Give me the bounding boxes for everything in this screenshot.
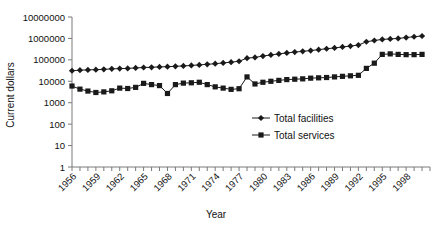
data-point-diamond: [236, 58, 242, 64]
data-point-diamond: [323, 46, 329, 52]
data-point-diamond: [411, 34, 417, 40]
y-axis-title: Current dollars: [5, 62, 16, 128]
data-point-diamond: [244, 55, 250, 61]
data-point-square: [165, 91, 170, 96]
data-point-square: [340, 74, 345, 79]
data-point-square: [300, 76, 305, 81]
data-point-square: [125, 86, 130, 91]
x-tick-label: 1998: [390, 171, 413, 194]
data-point-square: [276, 78, 281, 83]
x-tick-label: 1983: [270, 171, 293, 194]
data-series-group: [69, 33, 425, 96]
data-point-diamond: [93, 67, 99, 73]
data-point-square: [149, 82, 154, 87]
x-tick-label: 1986: [294, 171, 317, 194]
x-tick-label: 1962: [103, 171, 126, 194]
data-point-square: [411, 52, 416, 57]
x-tick-label: 1956: [56, 171, 79, 194]
data-point-square: [141, 81, 146, 86]
data-point-diamond: [133, 65, 139, 71]
x-axis-ticks: [72, 167, 430, 171]
data-point-square: [244, 74, 249, 79]
data-point-square: [213, 84, 218, 89]
data-point-diamond: [387, 36, 393, 42]
data-point-diamond: [101, 66, 107, 72]
data-point-diamond: [308, 48, 314, 54]
y-tick-label: 1000000: [28, 33, 65, 44]
data-point-square: [173, 82, 178, 87]
data-point-diamond: [268, 52, 274, 58]
data-point-diamond: [284, 50, 290, 56]
data-point-diamond: [395, 35, 401, 41]
data-point-diamond: [212, 61, 218, 67]
data-point-diamond: [292, 49, 298, 55]
data-point-diamond: [125, 65, 131, 71]
data-point-square: [181, 81, 186, 86]
data-point-diamond: [260, 53, 266, 59]
data-point-diamond: [419, 33, 425, 39]
data-point-square: [332, 74, 337, 79]
data-point-square: [117, 86, 122, 91]
data-point-diamond: [331, 45, 337, 51]
y-axis-title-text: Current dollars: [5, 62, 16, 128]
chart-legend: Total facilitiesTotal services: [252, 113, 335, 141]
y-tick-label: 100: [49, 119, 65, 130]
data-point-diamond: [204, 61, 210, 67]
y-tick-label: 10000: [39, 76, 65, 87]
legend-label: Total facilities: [274, 113, 333, 124]
data-point-square: [69, 83, 74, 88]
x-tick-label: 1977: [223, 171, 246, 194]
data-point-square: [260, 80, 265, 85]
data-point-square: [85, 88, 90, 93]
x-tick-label: 1965: [127, 171, 150, 194]
data-point-diamond: [196, 62, 202, 68]
data-point-diamond: [228, 59, 234, 65]
chart-container: Current dollars 100000001000000100000100…: [0, 0, 435, 231]
data-point-square: [236, 86, 241, 91]
data-point-diamond: [258, 115, 264, 121]
data-point-square: [229, 87, 234, 92]
data-point-diamond: [371, 37, 377, 43]
data-point-square: [372, 61, 377, 66]
x-tick-label: 1968: [151, 171, 174, 194]
data-point-diamond: [85, 67, 91, 73]
data-point-square: [101, 89, 106, 94]
data-point-diamond: [379, 36, 385, 42]
y-tick-label: 100000: [33, 54, 65, 65]
data-point-square: [348, 73, 353, 78]
y-tick-label: 1000: [44, 97, 65, 108]
data-point-diamond: [180, 63, 186, 69]
data-point-square: [197, 80, 202, 85]
data-point-square: [133, 85, 138, 90]
data-point-square: [419, 52, 424, 57]
x-tick-label: 1992: [342, 171, 365, 194]
data-point-diamond: [172, 63, 178, 69]
data-point-diamond: [220, 60, 226, 66]
data-point-diamond: [252, 54, 258, 60]
x-tick-label: 1974: [199, 171, 222, 194]
data-point-diamond: [164, 64, 170, 70]
data-point-square: [221, 86, 226, 91]
data-point-diamond: [347, 43, 353, 49]
x-tick-label: 1980: [247, 171, 270, 194]
data-point-diamond: [276, 51, 282, 57]
data-point-square: [252, 81, 257, 86]
x-tick-label: 1995: [366, 171, 389, 194]
data-point-square: [268, 79, 273, 84]
data-point-diamond: [339, 44, 345, 50]
data-point-square: [404, 52, 409, 57]
y-tick-label: 10000000: [23, 12, 65, 23]
data-point-square: [292, 77, 297, 82]
data-point-diamond: [300, 48, 306, 54]
data-point-diamond: [156, 64, 162, 70]
data-point-diamond: [117, 66, 123, 72]
data-point-diamond: [363, 39, 369, 45]
data-point-square: [205, 82, 210, 87]
data-point-diamond: [77, 67, 83, 73]
data-point-square: [77, 87, 82, 92]
series-line: [72, 36, 422, 71]
data-point-square: [324, 75, 329, 80]
y-tick-label: 10: [54, 140, 65, 151]
series-total-facilities: [69, 33, 425, 74]
data-point-diamond: [148, 64, 154, 70]
